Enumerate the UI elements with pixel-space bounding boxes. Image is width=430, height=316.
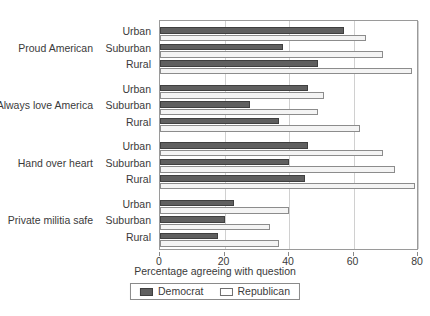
bar-democrat <box>160 27 344 34</box>
bar-row <box>160 42 417 59</box>
bar-chart: UrbanSuburbanRuralProud AmericanUrbanSub… <box>0 0 430 316</box>
bar-group <box>160 25 417 75</box>
row-label-urban: Urban <box>122 199 151 210</box>
legend-item-republican: Republican <box>219 286 290 297</box>
bar-republican <box>160 109 318 116</box>
label-group: UrbanSuburbanRuralProud American <box>0 24 155 74</box>
x-axis-title: Percentage agreeing with question <box>0 265 430 277</box>
category-label: Proud American <box>18 43 93 54</box>
bar-group <box>160 140 417 190</box>
label-group: UrbanSuburbanRuralAlways love America <box>0 82 155 132</box>
row-label-urban: Urban <box>122 26 151 37</box>
row-label-suburban: Suburban <box>105 43 151 54</box>
bars-layer <box>160 21 417 249</box>
category-axis-labels: UrbanSuburbanRuralProud AmericanUrbanSub… <box>0 20 159 250</box>
bar-row <box>160 140 417 157</box>
bar-democrat <box>160 60 318 67</box>
bar-republican <box>160 35 366 42</box>
bar-republican <box>160 92 324 99</box>
bar-democrat <box>160 118 279 125</box>
bar-democrat <box>160 142 308 149</box>
bar-republican <box>160 224 270 231</box>
bar-republican <box>160 68 412 75</box>
bar-republican <box>160 51 383 58</box>
row-label-rural: Rural <box>126 59 151 70</box>
bar-republican <box>160 183 415 190</box>
row-label-urban: Urban <box>122 84 151 95</box>
bar-republican <box>160 207 289 214</box>
label-group: UrbanSuburbanRuralHand over heart <box>0 139 155 189</box>
bar-group <box>160 83 417 133</box>
row-label-rural: Rural <box>126 117 151 128</box>
row-label-rural: Rural <box>126 174 151 185</box>
bar-republican <box>160 240 279 247</box>
bar-democrat <box>160 101 250 108</box>
gridline-80 <box>418 21 419 249</box>
plot-area <box>159 20 418 250</box>
legend-label-democrat: Democrat <box>158 286 204 297</box>
row-label-suburban: Suburban <box>105 215 151 226</box>
bar-group <box>160 198 417 248</box>
bar-row <box>160 157 417 174</box>
bar-row <box>160 198 417 215</box>
bar-row <box>160 99 417 116</box>
category-label: Always love America <box>0 100 93 111</box>
bar-democrat <box>160 85 308 92</box>
bar-democrat <box>160 200 234 207</box>
legend-swatch-democrat <box>140 288 153 296</box>
bar-row <box>160 231 417 248</box>
bar-republican <box>160 150 383 157</box>
row-label-urban: Urban <box>122 141 151 152</box>
bar-democrat <box>160 159 289 166</box>
label-group: UrbanSuburbanRuralPrivate militia safe <box>0 197 155 247</box>
x-axis-ticks: 020406080 <box>0 252 430 266</box>
category-label: Private militia safe <box>8 215 93 226</box>
row-label-rural: Rural <box>126 232 151 243</box>
legend-swatch-republican <box>219 288 232 296</box>
bar-row <box>160 25 417 42</box>
category-label: Hand over heart <box>18 158 93 169</box>
bar-row <box>160 173 417 190</box>
legend-item-democrat: Democrat <box>140 286 204 297</box>
bar-row <box>160 116 417 133</box>
bar-row <box>160 83 417 100</box>
bar-row <box>160 214 417 231</box>
bar-democrat <box>160 44 283 51</box>
legend-label-republican: Republican <box>237 286 290 297</box>
bar-democrat <box>160 233 218 240</box>
bar-democrat <box>160 175 305 182</box>
bar-republican <box>160 125 360 132</box>
bar-row <box>160 58 417 75</box>
bar-democrat <box>160 216 225 223</box>
row-label-suburban: Suburban <box>105 158 151 169</box>
bar-republican <box>160 166 395 173</box>
chart-legend: Democrat Republican <box>130 283 300 300</box>
row-label-suburban: Suburban <box>105 100 151 111</box>
